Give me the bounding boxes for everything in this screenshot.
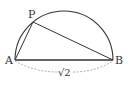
chord-ap [15,22,33,60]
point-label-b: B [115,54,123,67]
point-label-a: A [4,54,14,67]
dimension-arc-right [73,61,113,72]
dimension-arc-left [15,61,57,72]
length-label-ab: √2 [58,67,71,78]
point-label-p: P [28,8,36,21]
semicircle-diagram: P A B √2 [0,0,130,85]
